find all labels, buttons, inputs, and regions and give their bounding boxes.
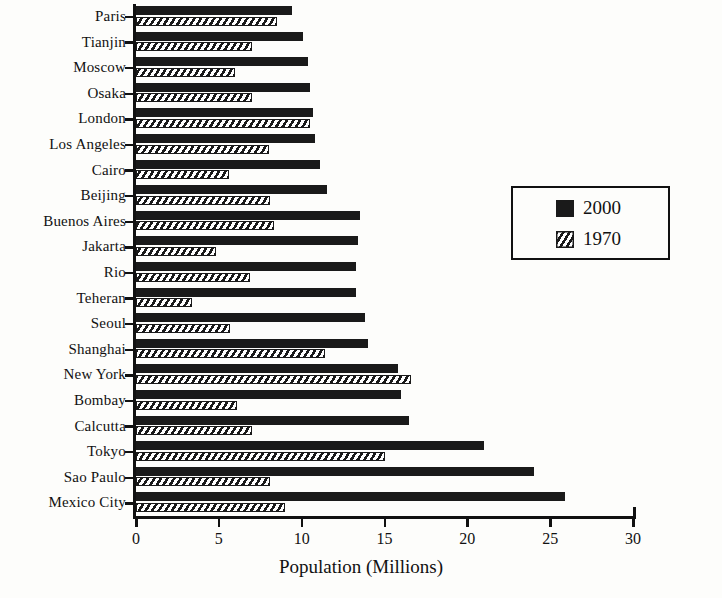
bar-1970 bbox=[136, 324, 230, 333]
chart-row: Osaka bbox=[0, 81, 722, 107]
chart-row: Paris bbox=[0, 4, 722, 30]
category-label: Jakarta bbox=[0, 234, 126, 260]
chart-row: Calcutta bbox=[0, 414, 722, 440]
chart-row: Cairo bbox=[0, 158, 722, 184]
category-label: Buenos Aires bbox=[0, 209, 126, 235]
bar-2000 bbox=[136, 160, 320, 169]
category-label: Moscow bbox=[0, 55, 126, 81]
x-axis-tick-label: 10 bbox=[282, 530, 322, 548]
bar-1970 bbox=[136, 196, 270, 205]
bar-2000 bbox=[136, 492, 565, 501]
bar-1970 bbox=[136, 247, 216, 256]
category-label: London bbox=[0, 106, 126, 132]
chart-row: Moscow bbox=[0, 55, 722, 81]
bar-2000 bbox=[136, 262, 356, 271]
y-axis-tick bbox=[125, 477, 136, 480]
y-axis-tick bbox=[125, 502, 136, 505]
x-axis-title: Population (Millions) bbox=[0, 556, 722, 578]
x-axis-tick-label: 5 bbox=[199, 530, 239, 548]
bar-1970 bbox=[136, 401, 237, 410]
x-axis-tick-label: 0 bbox=[116, 530, 156, 548]
bar-2000 bbox=[136, 211, 360, 220]
x-axis-tick bbox=[301, 516, 304, 527]
bar-1970 bbox=[136, 477, 270, 486]
bar-2000 bbox=[136, 416, 409, 425]
category-label: Cairo bbox=[0, 158, 126, 184]
y-axis-tick bbox=[125, 425, 136, 428]
chart-row: Shanghai bbox=[0, 337, 722, 363]
y-axis-tick bbox=[125, 195, 136, 198]
bar-1970 bbox=[136, 503, 285, 512]
y-axis-tick bbox=[125, 374, 136, 377]
category-label: Teheran bbox=[0, 286, 126, 312]
x-axis-tick bbox=[218, 516, 221, 527]
bar-2000 bbox=[136, 339, 368, 348]
chart-row: Los Angeles bbox=[0, 132, 722, 158]
bar-2000 bbox=[136, 364, 398, 373]
category-label: Beijing bbox=[0, 183, 126, 209]
bar-2000 bbox=[136, 467, 534, 476]
chart-row: Seoul bbox=[0, 311, 722, 337]
y-axis-tick bbox=[125, 16, 136, 19]
bar-1970 bbox=[136, 298, 192, 307]
bar-2000 bbox=[136, 441, 484, 450]
category-label: Calcutta bbox=[0, 414, 126, 440]
category-label: Tokyo bbox=[0, 439, 126, 465]
chart-row: London bbox=[0, 106, 722, 132]
bar-2000 bbox=[136, 288, 356, 297]
chart-row: Jakarta bbox=[0, 234, 722, 260]
x-axis-tick-label: 25 bbox=[530, 530, 570, 548]
x-axis-tick bbox=[466, 516, 469, 527]
bar-1970 bbox=[136, 119, 310, 128]
chart-row: Tianjin bbox=[0, 30, 722, 56]
x-axis-tick bbox=[632, 516, 635, 527]
category-label: Tianjin bbox=[0, 30, 126, 56]
chart-row: Sao Paulo bbox=[0, 465, 722, 491]
bar-1970 bbox=[136, 93, 252, 102]
bar-2000 bbox=[136, 57, 308, 66]
bar-1970 bbox=[136, 17, 277, 26]
population-bar-chart: 051015202530 Population (Millions) 2000 … bbox=[0, 0, 722, 598]
category-label: Shanghai bbox=[0, 337, 126, 363]
bar-2000 bbox=[136, 185, 327, 194]
chart-row: Teheran bbox=[0, 286, 722, 312]
bar-1970 bbox=[136, 221, 274, 230]
bar-1970 bbox=[136, 273, 250, 282]
chart-row: Buenos Aires bbox=[0, 209, 722, 235]
category-label: Mexico City bbox=[0, 490, 126, 516]
category-label: Sao Paulo bbox=[0, 465, 126, 491]
bar-1970 bbox=[136, 349, 325, 358]
bar-1970 bbox=[136, 452, 385, 461]
y-axis-tick bbox=[125, 41, 136, 44]
bar-2000 bbox=[136, 134, 315, 143]
x-axis-tick bbox=[549, 516, 552, 527]
y-axis-tick bbox=[125, 246, 136, 249]
chart-row: Bombay bbox=[0, 388, 722, 414]
category-label: Osaka bbox=[0, 81, 126, 107]
category-label: New York bbox=[0, 362, 126, 388]
x-axis-tick-label: 15 bbox=[365, 530, 405, 548]
chart-row: Tokyo bbox=[0, 439, 722, 465]
bar-2000 bbox=[136, 236, 358, 245]
category-label: Bombay bbox=[0, 388, 126, 414]
chart-row: Mexico City bbox=[0, 490, 722, 516]
y-axis-tick bbox=[125, 349, 136, 352]
y-axis-tick bbox=[125, 144, 136, 147]
bar-2000 bbox=[136, 108, 313, 117]
chart-row: New York bbox=[0, 362, 722, 388]
y-axis-tick bbox=[125, 323, 136, 326]
y-axis-tick bbox=[125, 451, 136, 454]
category-label: Seoul bbox=[0, 311, 126, 337]
chart-row: Rio bbox=[0, 260, 722, 286]
bar-1970 bbox=[136, 426, 252, 435]
category-label: Los Angeles bbox=[0, 132, 126, 158]
bar-2000 bbox=[136, 390, 401, 399]
y-axis-tick bbox=[125, 67, 136, 70]
bar-2000 bbox=[136, 83, 310, 92]
y-axis-tick bbox=[125, 297, 136, 300]
bar-1970 bbox=[136, 375, 411, 384]
bar-2000 bbox=[136, 313, 365, 322]
y-axis-tick bbox=[125, 93, 136, 96]
x-axis-tick bbox=[384, 516, 387, 527]
x-axis-tick bbox=[135, 516, 138, 527]
